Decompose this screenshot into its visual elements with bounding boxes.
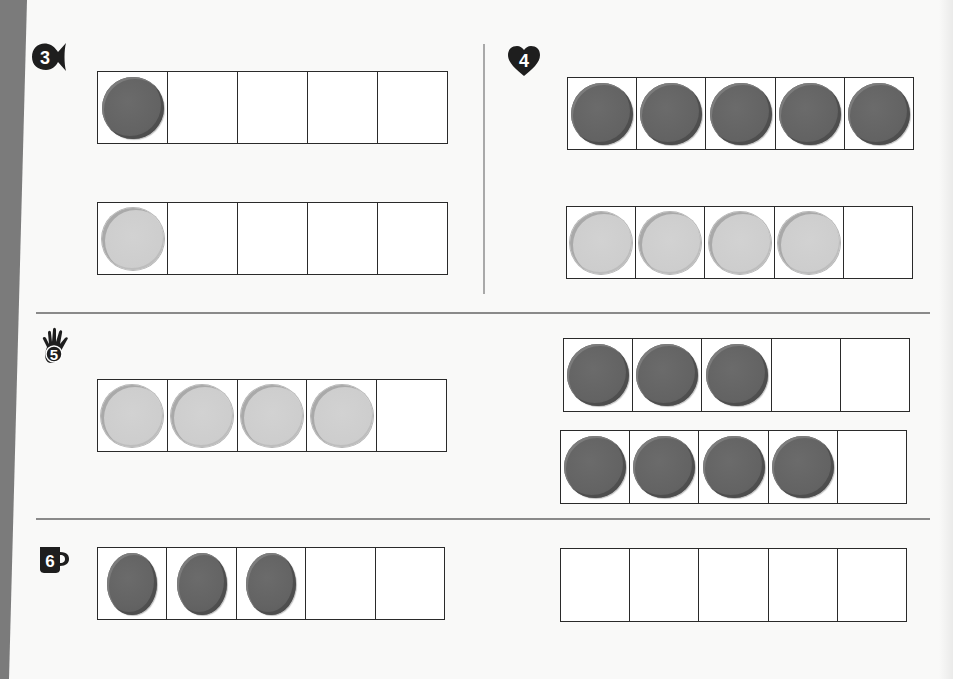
dark-counter [246,553,296,615]
frame-cell [838,549,906,621]
light-counter [570,212,632,274]
section-5-hand-icon: 5 [37,327,77,367]
frame-cell [699,549,768,621]
dark-counter [703,436,765,498]
light-counter [709,212,771,274]
light-counter [311,385,373,447]
dark-counter [706,344,768,406]
frame-cell [98,72,168,143]
frame-cell [568,78,637,149]
frame-cell [838,431,906,503]
frame-cell [637,78,706,149]
frame-cell [844,207,912,278]
frame-cell [705,207,774,278]
section-4-ten-frame-bottom [566,206,913,279]
dark-counter [567,344,629,406]
section-5-ten-frame-right-top [563,338,910,412]
frame-cell [238,203,308,274]
column-divider [483,44,485,294]
frame-cell [306,548,375,619]
frame-cell [168,72,238,143]
light-counter [102,208,164,270]
frame-cell [376,548,444,619]
frame-cell [167,548,236,619]
frame-cell [845,78,913,149]
frame-cell [378,72,447,143]
svg-text:4: 4 [519,51,529,71]
frame-cell [168,380,238,451]
frame-cell [772,339,841,411]
section-5-ten-frame-left [97,379,447,452]
dark-counter [636,344,698,406]
dark-counter [571,83,633,145]
svg-text:6: 6 [45,552,54,571]
frame-cell [238,72,308,143]
dark-counter [848,83,910,145]
svg-text:3: 3 [40,48,50,68]
frame-cell [98,203,168,274]
section-6-ten-frame-right-empty [560,548,907,622]
frame-cell [699,431,768,503]
section-3-fish-icon: 3 [30,40,68,74]
section-separator [36,312,930,314]
frame-cell [775,207,844,278]
section-5-ten-frame-right-bottom [560,430,907,504]
frame-cell [769,431,838,503]
svg-text:5: 5 [50,346,58,363]
section-3-ten-frame-bottom [97,202,448,275]
frame-cell [564,339,633,411]
section-separator [36,518,930,520]
frame-cell [561,431,630,503]
frame-cell [238,380,308,451]
light-counter [778,212,840,274]
frame-cell [706,78,775,149]
light-counter [101,385,163,447]
frame-cell [98,380,168,451]
light-counter [639,212,701,274]
light-counter [241,385,303,447]
frame-cell [636,207,705,278]
dark-counter [102,77,164,139]
frame-cell [237,548,306,619]
dark-counter [633,436,695,498]
dark-counter [710,83,772,145]
dark-counter [107,553,157,615]
section-4-heart-icon: 4 [506,44,542,78]
frame-cell [561,549,630,621]
dark-counter [564,436,626,498]
frame-cell [98,548,167,619]
dark-counter [640,83,702,145]
frame-cell [630,431,699,503]
frame-cell [630,549,699,621]
section-6-mug-icon: 6 [38,545,72,575]
frame-cell [308,203,378,274]
light-counter [171,385,233,447]
frame-cell [769,549,838,621]
frame-cell [308,72,378,143]
dark-counter [779,83,841,145]
frame-cell [702,339,771,411]
dark-counter [177,553,227,615]
section-3-ten-frame-top [97,71,448,144]
frame-cell [307,380,377,451]
frame-cell [633,339,702,411]
frame-cell [567,207,636,278]
frame-cell [168,203,238,274]
page-edge-shadow [939,0,953,679]
dark-counter [772,436,834,498]
frame-cell [378,203,447,274]
frame-cell [841,339,909,411]
section-4-ten-frame-top [567,77,914,150]
section-6-ten-frame-left [97,547,445,620]
frame-cell [377,380,446,451]
frame-cell [776,78,845,149]
page-side-band [0,0,30,679]
